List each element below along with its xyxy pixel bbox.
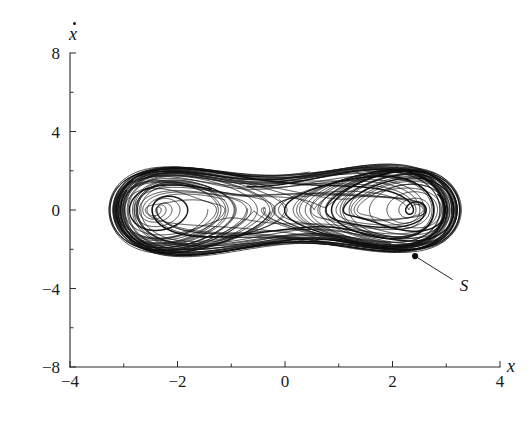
y-tick-label: 0 xyxy=(52,201,61,220)
x-tick-label: −4 xyxy=(61,372,80,391)
x-tick-label: −2 xyxy=(168,372,186,391)
annotation-leader-line xyxy=(415,256,453,280)
y-axis-label: x xyxy=(68,22,77,44)
x-tick-label: 2 xyxy=(388,372,397,391)
x-tick-label: 4 xyxy=(496,372,505,391)
y-tick-label: 4 xyxy=(52,123,61,142)
figure-container: −4−2024−8−4048 S x x xyxy=(0,0,532,421)
svg-text:x: x xyxy=(68,24,77,44)
x-tick-label: 0 xyxy=(281,372,290,391)
phase-portrait-svg: −4−2024−8−4048 S x x xyxy=(0,0,532,421)
x-axis-label: x xyxy=(506,356,515,376)
y-tick-label: 8 xyxy=(52,44,61,63)
y-tick-label: −4 xyxy=(42,280,61,299)
annotations-group: S xyxy=(412,253,469,295)
annotation-s: S xyxy=(412,253,469,295)
annotation-point-marker xyxy=(412,253,418,259)
annotation-text: S xyxy=(460,276,469,295)
attractor-trajectory-group xyxy=(109,164,461,257)
y-tick-label: −8 xyxy=(42,358,60,377)
